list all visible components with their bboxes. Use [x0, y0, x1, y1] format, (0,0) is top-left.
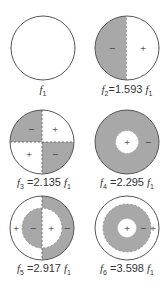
- svg-text:−: −: [30, 222, 36, 234]
- mode-label-f1: f1: [40, 83, 47, 97]
- svg-text:+: +: [124, 222, 130, 234]
- membrane-modes-diagram: − + − + + − + − + − + −: [0, 0, 167, 286]
- mode-f1-diagram: [11, 16, 75, 80]
- sign-plus: +: [140, 42, 146, 54]
- mode-f3-diagram: − + + −: [10, 110, 74, 174]
- svg-text:−: −: [64, 222, 70, 234]
- mode-f4-diagram: + −: [95, 110, 159, 174]
- mode-label-f5: f5 =2.917 f1: [17, 262, 71, 276]
- svg-text:+: +: [26, 148, 32, 160]
- svg-text:−: −: [52, 148, 58, 160]
- mode-f6-diagram: + − +: [95, 196, 159, 260]
- mode-label-f3: f3 =2.135 f1: [17, 176, 71, 190]
- mode-label-f6: f6 =3.598 f1: [100, 262, 154, 276]
- svg-text:+: +: [13, 222, 19, 234]
- svg-text:−: −: [145, 136, 151, 148]
- svg-text:+: +: [52, 123, 58, 135]
- svg-text:−: −: [140, 222, 146, 234]
- sign-minus: −: [109, 42, 115, 54]
- mode-label-f2: f2=1.593 f1: [102, 83, 153, 97]
- mode-f2-diagram: − +: [95, 16, 159, 80]
- mode-f5-diagram: + − + −: [10, 196, 74, 260]
- svg-text:−: −: [28, 123, 34, 135]
- svg-text:+: +: [150, 222, 156, 234]
- svg-text:+: +: [124, 136, 130, 148]
- mode-label-f4: f4 =2.295 f1: [100, 176, 154, 190]
- svg-text:+: +: [48, 222, 54, 234]
